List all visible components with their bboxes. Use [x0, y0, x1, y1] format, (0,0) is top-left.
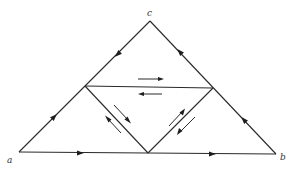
- vertex-label-a: a: [7, 155, 12, 165]
- arrow-left-icon: [138, 92, 162, 96]
- edge-mid-ac-mid-bc: [85, 86, 213, 88]
- arrowhead-icon: [113, 50, 122, 59]
- arrow-down-left-icon: [177, 117, 195, 135]
- arrow-down-right-icon: [114, 105, 131, 124]
- edge-mid-ac-mid-ab: [85, 86, 148, 153]
- arrow-up-left-icon: [105, 116, 121, 134]
- triangle-diagram: c a b: [0, 0, 292, 169]
- arrowhead-icon: [209, 152, 216, 157]
- vertex-label-b: b: [280, 152, 286, 162]
- arrow-right-icon: [138, 77, 164, 81]
- arrowhead-icon: [77, 151, 84, 156]
- edge-mid-bc-mid-ab: [148, 88, 213, 153]
- vertex-label-c: c: [147, 8, 152, 18]
